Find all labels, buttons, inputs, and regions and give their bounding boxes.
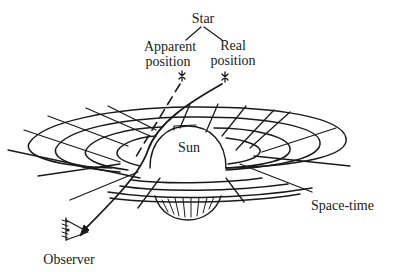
real-position-label-1: Real — [220, 38, 246, 53]
real-star-icon — [222, 72, 228, 82]
sun-lower-hatching — [162, 197, 214, 217]
apparent-star-icon — [179, 71, 185, 81]
space-time-label: Space-time — [311, 198, 374, 213]
apparent-position-label-2: position — [145, 54, 190, 69]
gravitational-lensing-diagram: Star Apparent position Real position Sun — [0, 0, 393, 272]
sun-label: Sun — [178, 140, 200, 155]
observer-label: Observer — [43, 252, 95, 267]
space-time-grid — [8, 104, 350, 208]
apparent-position-label-1: Apparent — [144, 39, 196, 54]
real-position-label-2: position — [210, 53, 255, 68]
star-label: Star — [192, 11, 215, 26]
